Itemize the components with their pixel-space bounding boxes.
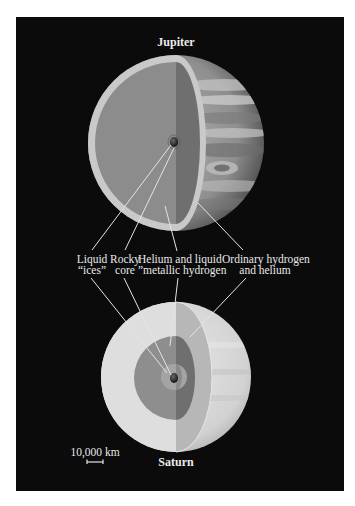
label-ordinary-hydrogen-helium: Ordinary hydrogen and helium: [222, 254, 308, 276]
saturn-cutaway: [101, 302, 262, 452]
scale-bar: [87, 460, 103, 465]
label-helium-line2: ”metallic hydrogen: [138, 265, 218, 276]
jupiter-title: Jupiter: [146, 37, 206, 48]
scale-label: 10,000 km: [64, 447, 126, 458]
jupiter-cutaway: [88, 55, 272, 231]
label-ordinary-line2: and helium: [222, 265, 308, 276]
label-helium-metallic-hydrogen: Helium and liquid ”metallic hydrogen: [138, 254, 218, 276]
jupiter-metallic-hydrogen-left: [95, 62, 176, 224]
saturn-title: Saturn: [146, 457, 206, 468]
